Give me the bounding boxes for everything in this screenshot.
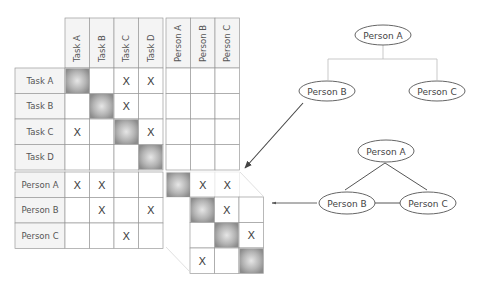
matrix-cell[interactable] <box>191 119 216 145</box>
column-header-label: Task A <box>72 35 82 63</box>
matrix-cell[interactable]: X <box>190 248 215 274</box>
matrix-cell[interactable]: X <box>65 172 90 198</box>
arrow-tree-to-matrix-icon <box>245 103 303 168</box>
matrix-cell[interactable] <box>65 145 90 171</box>
matrix-cell[interactable]: X <box>191 172 216 198</box>
matrix-cell[interactable] <box>90 145 115 171</box>
matrix-cell[interactable] <box>166 68 191 94</box>
matrix-cell[interactable]: X <box>114 68 139 94</box>
graph-node-person-b[interactable]: Person B <box>319 192 375 214</box>
matrix-cell[interactable] <box>215 68 240 94</box>
matrix-cell[interactable] <box>139 172 164 198</box>
diagonal-shade <box>167 173 191 198</box>
column-header-task-d[interactable]: Task D <box>139 18 164 68</box>
matrix-cell[interactable] <box>166 119 191 145</box>
matrix-cell[interactable] <box>90 68 115 94</box>
column-header-task-a[interactable]: Task A <box>65 18 90 68</box>
matrix-cell[interactable] <box>215 119 240 145</box>
matrix-cell[interactable] <box>239 248 264 274</box>
matrix-cell[interactable] <box>190 223 215 249</box>
column-header-group: Task ATask BTask CTask DPerson APerson B… <box>65 18 240 68</box>
matrix-cell[interactable]: X <box>114 94 139 120</box>
network-graph: Person A Person B Person C <box>319 140 456 214</box>
matrix-cell[interactable] <box>139 145 164 171</box>
hierarchy-tree: Person A Person B Person C <box>299 25 465 101</box>
matrix-cell[interactable] <box>114 198 139 224</box>
matrix-cell[interactable] <box>166 145 191 171</box>
matrix-cell[interactable] <box>90 119 115 145</box>
matrix-cell[interactable]: X <box>90 198 115 224</box>
matrix-cell[interactable]: X <box>139 68 164 94</box>
dependency-mark: X <box>223 204 231 217</box>
row-header-label: Task B <box>26 101 54 111</box>
dependency-mark: X <box>73 179 81 192</box>
graph-node-person-c[interactable]: Person C <box>400 192 456 214</box>
tree-node-person-a[interactable]: Person A <box>355 25 411 45</box>
row-header-label: Person C <box>21 231 58 241</box>
matrix-cell[interactable]: X <box>215 197 240 223</box>
column-header-label: Person A <box>173 25 183 62</box>
matrix-cell[interactable] <box>65 223 90 249</box>
matrix-cell[interactable] <box>65 198 90 224</box>
row-header[interactable]: Task B <box>15 94 65 120</box>
matrix-cell[interactable] <box>90 223 115 249</box>
row-header[interactable]: Task D <box>15 145 65 171</box>
dependency-mark: X <box>122 75 130 88</box>
matrix-cell[interactable] <box>191 145 216 171</box>
dependency-mark: X <box>73 126 81 139</box>
matrix-cell[interactable] <box>190 197 215 223</box>
row-header[interactable]: Task C <box>15 119 65 145</box>
tree-node-person-b[interactable]: Person B <box>299 81 355 101</box>
person-rows-group: Person AXXPerson BXXPerson CX <box>15 172 163 249</box>
matrix-cell[interactable] <box>215 94 240 120</box>
matrix-cell[interactable] <box>65 94 90 120</box>
row-header-label: Task A <box>26 76 54 86</box>
matrix-cell[interactable] <box>191 94 216 120</box>
matrix-cell[interactable]: X <box>65 119 90 145</box>
matrix-cell[interactable]: X <box>239 223 264 249</box>
matrix-cell[interactable]: X <box>90 172 115 198</box>
matrix-cell[interactable]: X <box>215 172 240 198</box>
matrix-cell[interactable] <box>90 94 115 120</box>
graph-node-person-a[interactable]: Person A <box>358 140 414 162</box>
matrix-cell[interactable] <box>191 68 216 94</box>
matrix-cell[interactable] <box>239 197 264 223</box>
row-header-label: Task D <box>25 152 54 162</box>
matrix-cell[interactable] <box>139 94 164 120</box>
table-row: Person CX <box>15 223 163 249</box>
diagonal-shade <box>90 94 114 119</box>
matrix-cell[interactable]: X <box>139 119 164 145</box>
row-header[interactable]: Person B <box>15 198 65 224</box>
matrix-cell[interactable]: X <box>139 198 164 224</box>
tree-node-person-c[interactable]: Person C <box>409 81 465 101</box>
matrix-cell[interactable] <box>139 223 164 249</box>
dependency-mark: X <box>98 179 106 192</box>
matrix-cell[interactable] <box>166 94 191 120</box>
column-header-label: Person C <box>222 25 232 62</box>
dependency-mark: X <box>223 179 231 192</box>
row-header[interactable]: Person A <box>15 172 65 198</box>
person-person-top-row: XX <box>166 172 240 198</box>
row-header[interactable]: Task A <box>15 68 65 94</box>
matrix-cell[interactable] <box>215 223 240 249</box>
row-header[interactable]: Person C <box>15 223 65 249</box>
matrix-cell[interactable] <box>114 119 139 145</box>
matrix-cell[interactable]: X <box>114 223 139 249</box>
diagonal-shade <box>240 249 264 274</box>
dependency-mark: X <box>199 179 207 192</box>
matrix-cell[interactable] <box>215 248 240 274</box>
matrix-cell[interactable] <box>65 68 90 94</box>
column-header-person-a[interactable]: Person A <box>166 18 191 68</box>
dsm-diagram: Task ATask BTask CTask DPerson APerson B… <box>0 0 478 294</box>
table-row: Task AXX <box>15 68 240 94</box>
matrix-cell[interactable] <box>215 145 240 171</box>
matrix-cell[interactable] <box>114 145 139 171</box>
matrix-cell[interactable] <box>166 172 191 198</box>
column-header-person-c[interactable]: Person C <box>215 18 240 68</box>
column-header-task-b[interactable]: Task B <box>90 18 115 68</box>
node-label: Person C <box>417 87 456 97</box>
column-header-person-b[interactable]: Person B <box>191 18 216 68</box>
dependency-mark: X <box>147 204 155 217</box>
column-header-task-c[interactable]: Task C <box>114 18 139 68</box>
matrix-cell[interactable] <box>114 172 139 198</box>
